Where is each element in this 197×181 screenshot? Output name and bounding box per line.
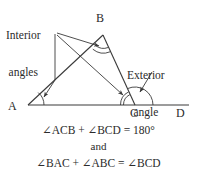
leader-interior-to-angle-c bbox=[57, 35, 123, 95]
interior-angles-callout: Interior angles bbox=[6, 4, 40, 103]
equation-connector: and bbox=[0, 141, 197, 153]
vertex-label-c: C bbox=[130, 107, 138, 120]
vertex-label-d: D bbox=[176, 107, 185, 120]
vertex-label-a: A bbox=[8, 100, 17, 113]
equation-line-1: ∠ACB + ∠BCD = 180° bbox=[0, 124, 197, 136]
interior-callout-line2: angles bbox=[6, 66, 40, 78]
exterior-callout-line1: Exterior bbox=[127, 69, 165, 81]
leader-interior-to-angle-b bbox=[57, 33, 99, 46]
vertex-label-b: B bbox=[96, 12, 104, 25]
equation-line-2: ∠BAC + ∠ABC = ∠BCD bbox=[0, 157, 197, 169]
angle-arc-abc-outer bbox=[93, 49, 110, 53]
geometry-figure: Interior angles Exterior angle A B C D ∠… bbox=[0, 0, 197, 181]
interior-callout-line1: Interior bbox=[6, 29, 40, 41]
